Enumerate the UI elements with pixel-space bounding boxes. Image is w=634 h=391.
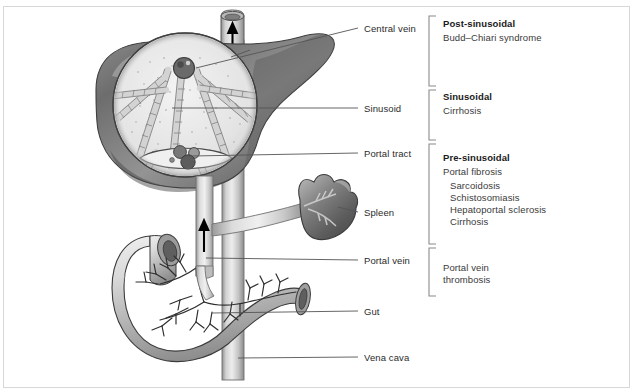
gut-distal-opening [293,282,312,316]
category-brackets [429,16,436,296]
category-heading-pre-sinusoidal: Pre-sinusoidal [443,152,510,163]
category-item-cirrhosis-sinusoidal: Cirrhosis [443,105,481,116]
label-vena-cava: Vena cava [364,352,409,363]
category-item-portal-vein-thrombosis-line1: Portal vein [443,262,489,273]
category-item-budd-chiari: Budd–Chiari syndrome [443,32,542,43]
category-heading-post-sinusoidal: Post-sinusoidal [443,18,515,29]
label-central-vein: Central vein [364,23,416,34]
spleen-organ [299,175,358,240]
category-item-schistosomiasis: Schistosomiasis [450,192,520,203]
diagram-page: Central vein Sinusoid Portal tract Splee… [0,0,634,391]
bracket-pre-sinusoidal [429,144,436,244]
category-item-portal-fibrosis: Portal fibrosis [443,166,502,177]
portal-hypertension-illustration [0,0,634,391]
bracket-post-sinusoidal [429,16,436,86]
label-portal-tract: Portal tract [364,148,411,159]
category-item-hepatoportal-sclerosis: Hepatoportal sclerosis [450,204,546,215]
leader-vena-cava [238,357,358,358]
category-item-cirrhosis-presinusoidal: Cirrhosis [450,216,488,227]
label-sinusoid: Sinusoid [364,103,401,114]
gut-proximal-opening [150,232,184,285]
bracket-sinusoidal [429,90,436,140]
label-spleen: Spleen [364,207,394,218]
label-portal-vein: Portal vein [364,255,410,266]
category-item-portal-vein-thrombosis-line2: thrombosis [443,274,490,285]
bracket-pv-thrombosis [429,248,436,296]
category-heading-sinusoidal: Sinusoidal [443,91,492,102]
label-gut: Gut [364,306,380,317]
category-item-sarcoidosis: Sarcoidosis [450,180,500,191]
